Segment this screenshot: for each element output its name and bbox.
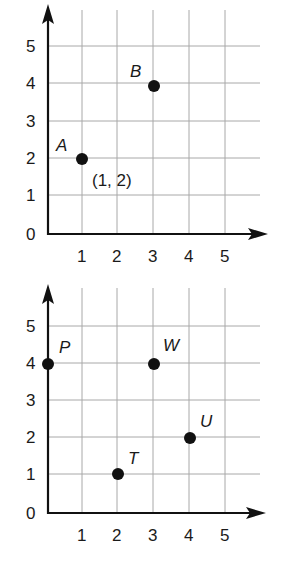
x-tick-3: 3	[148, 526, 157, 545]
point-a-coordinate: (1, 2)	[92, 171, 132, 190]
x-tick-labels: 1 2 3 4 5	[77, 526, 229, 545]
point-w-label: W	[163, 336, 181, 355]
grid	[48, 10, 260, 234]
axes	[42, 284, 266, 519]
x-tick-2: 2	[112, 526, 121, 545]
point-u-label: U	[200, 412, 213, 431]
point-w	[148, 358, 160, 370]
y-tick-4: 4	[26, 354, 35, 373]
point-p-label: P	[59, 338, 71, 357]
x-tick-2: 2	[112, 247, 121, 266]
y-tick-3: 3	[26, 112, 35, 131]
x-tick-1: 1	[77, 247, 86, 266]
point-a-label: A	[55, 136, 67, 155]
y-tick-1: 1	[26, 186, 35, 205]
x-tick-3: 3	[148, 247, 157, 266]
grid	[48, 288, 260, 513]
point-t	[112, 468, 124, 480]
axes	[42, 4, 268, 240]
x-tick-4: 4	[184, 247, 193, 266]
y-tick-5: 5	[26, 37, 35, 56]
y-tick-0: 0	[26, 225, 35, 244]
point-b	[148, 80, 160, 92]
point-b-label: B	[130, 62, 141, 81]
point-p	[42, 358, 54, 370]
x-tick-4: 4	[184, 526, 193, 545]
graph-2: 0 1 2 3 4 5 1 2 3 4 5 P W U T	[26, 284, 266, 545]
x-tick-5: 5	[220, 526, 229, 545]
x-tick-labels: 1 2 3 4 5	[77, 247, 229, 266]
y-tick-1: 1	[26, 465, 35, 484]
y-tick-4: 4	[26, 74, 35, 93]
point-t-label: T	[128, 449, 140, 468]
x-tick-1: 1	[77, 526, 86, 545]
coordinate-graphs: 0 1 2 3 4 5 1 2 3 4 5 A (1, 2) B	[0, 0, 294, 588]
y-tick-labels: 0 1 2 3 4 5	[26, 37, 35, 244]
y-tick-3: 3	[26, 391, 35, 410]
x-tick-5: 5	[220, 247, 229, 266]
graph-1: 0 1 2 3 4 5 1 2 3 4 5 A (1, 2) B	[26, 4, 268, 266]
point-u	[184, 432, 196, 444]
y-tick-2: 2	[26, 149, 35, 168]
points: A (1, 2) B	[55, 62, 160, 190]
points: P W U T	[42, 336, 213, 480]
y-tick-0: 0	[26, 504, 35, 523]
point-a	[76, 153, 88, 165]
y-tick-labels: 0 1 2 3 4 5	[26, 317, 35, 523]
y-tick-5: 5	[26, 317, 35, 336]
y-tick-2: 2	[26, 428, 35, 447]
